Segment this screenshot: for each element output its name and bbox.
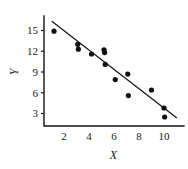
data-point bbox=[89, 51, 94, 56]
data-point bbox=[126, 93, 131, 98]
data-point bbox=[149, 87, 154, 92]
y-tick-labels: 3691215 bbox=[27, 24, 39, 119]
scatter-plot-figure: 3691215 246810 X Y bbox=[0, 0, 188, 169]
data-point bbox=[161, 105, 166, 110]
y-tick-label: 15 bbox=[27, 24, 39, 36]
chart-canvas: 3691215 246810 X Y bbox=[0, 0, 188, 169]
x-tick-label: 10 bbox=[159, 130, 171, 142]
x-tick-label: 4 bbox=[86, 130, 92, 142]
data-point bbox=[76, 47, 81, 52]
data-point bbox=[103, 62, 108, 67]
y-tick-label: 6 bbox=[33, 87, 39, 99]
data-point bbox=[102, 50, 107, 55]
y-tick-label: 12 bbox=[27, 45, 38, 57]
x-axis-title: X bbox=[109, 148, 118, 162]
data-point bbox=[162, 114, 167, 119]
data-points bbox=[51, 29, 167, 120]
x-tick-labels: 246810 bbox=[61, 130, 170, 142]
regression-line bbox=[52, 21, 176, 117]
x-tick-label: 6 bbox=[111, 130, 117, 142]
data-point bbox=[125, 71, 130, 76]
data-point bbox=[51, 29, 56, 34]
y-tick-label: 3 bbox=[33, 107, 39, 119]
data-point bbox=[113, 77, 118, 82]
x-tick-label: 8 bbox=[136, 130, 142, 142]
y-axis-title: Y bbox=[7, 67, 21, 75]
x-tick-label: 2 bbox=[61, 130, 67, 142]
data-point bbox=[75, 42, 80, 47]
y-tick-label: 9 bbox=[33, 66, 39, 78]
